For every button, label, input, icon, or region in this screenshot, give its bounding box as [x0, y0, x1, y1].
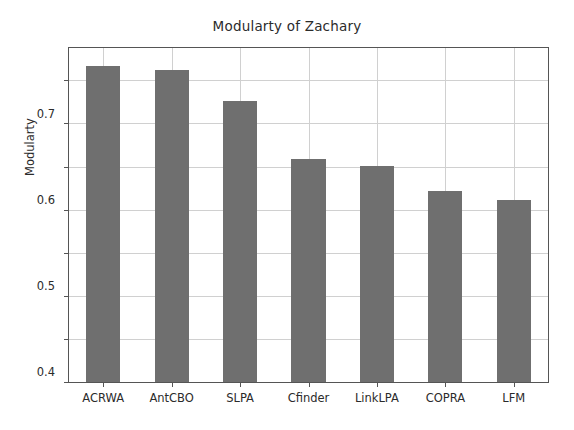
y-axis-tick: 0.3: [64, 253, 69, 254]
bar-copra: [428, 191, 462, 382]
chart-figure: Modularty of Zachary Modularty 0.00.10.2…: [0, 0, 574, 430]
y-axis-tick-label: 0.5: [37, 279, 55, 293]
bar-acrwa: [86, 66, 120, 382]
y-axis-tick: 0.7: [64, 80, 69, 81]
x-axis-tick: [240, 382, 241, 387]
y-axis-tick-label: 0.6: [37, 193, 55, 207]
bar-linklpa: [360, 166, 394, 382]
y-axis-tick: 0.5: [64, 167, 69, 168]
x-axis-tick-label: LFM: [502, 391, 525, 405]
y-axis-tick: 0.1: [64, 339, 69, 340]
x-axis-tick: [103, 382, 104, 387]
x-axis-tick: [377, 382, 378, 387]
y-axis-tick: 0.4: [64, 210, 69, 211]
y-axis-tick: 0.6: [64, 123, 69, 124]
x-axis-tick-label: AntCBO: [149, 391, 193, 405]
y-axis-tick: 0.0: [64, 382, 69, 383]
page-title: Modularty of Zachary: [0, 18, 574, 34]
bar-slpa: [223, 101, 257, 382]
x-axis-tick-label: COPRA: [426, 391, 465, 405]
x-axis-tick: [309, 382, 310, 387]
y-axis-tick-label: 0.7: [37, 107, 55, 121]
y-axis-tick: 0.2: [64, 296, 69, 297]
x-axis-tick-label: LinkLPA: [355, 391, 399, 405]
x-axis-tick: [445, 382, 446, 387]
x-axis-tick-label: SLPA: [226, 391, 254, 405]
bar-cfinder: [291, 159, 325, 382]
y-axis-tick-label: 0.4: [37, 365, 55, 379]
x-axis-tick: [172, 382, 173, 387]
bar-antcbo: [155, 70, 189, 382]
x-axis-tick: [514, 382, 515, 387]
y-axis-label: Modularty: [23, 47, 37, 247]
x-axis-tick-label: ACRWA: [82, 391, 124, 405]
bar-lfm: [497, 200, 531, 382]
x-axis-tick-label: Cfinder: [288, 391, 330, 405]
plot-area: 0.00.10.20.30.40.50.60.7ACRWAAntCBOSLPAC…: [68, 47, 549, 383]
